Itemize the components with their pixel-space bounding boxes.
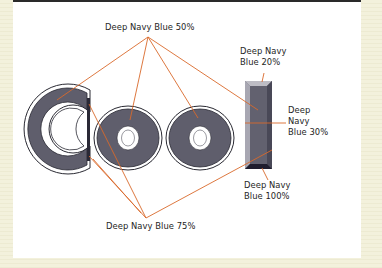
label-navy-100-line1: Deep Navy xyxy=(244,180,291,191)
letter-c xyxy=(24,84,90,174)
label-navy-20-line2: Blue 20% xyxy=(240,57,287,68)
label-navy-30-line3: Blue 30% xyxy=(288,127,328,138)
label-navy-20-line1: Deep Navy xyxy=(240,46,287,57)
label-navy-100: Deep Navy Blue 100% xyxy=(244,180,291,202)
label-navy-30-line1: Deep xyxy=(288,105,328,116)
label-navy-100-line2: Blue 100% xyxy=(244,191,291,202)
label-navy-50: Deep Navy Blue 50% xyxy=(105,22,194,33)
letter-o-1 xyxy=(94,106,162,170)
letter-o-2 xyxy=(166,106,234,170)
label-navy-30-line2: Navy xyxy=(288,116,328,127)
letter-i-bar xyxy=(245,81,272,169)
label-navy-75: Deep Navy Blue 75% xyxy=(106,221,195,232)
label-navy-20: Deep Navy Blue 20% xyxy=(240,46,287,68)
label-navy-30: Deep Navy Blue 30% xyxy=(288,105,328,138)
